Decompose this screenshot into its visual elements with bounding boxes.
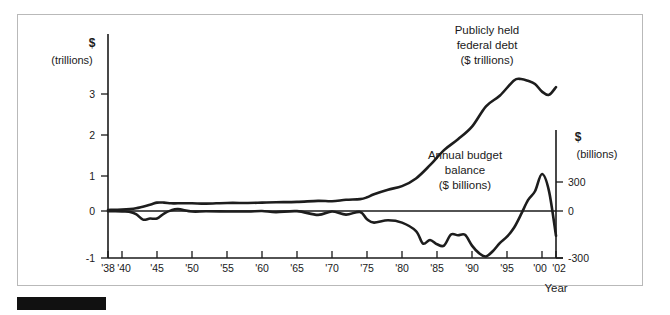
left-tick-label-2: 2	[89, 129, 95, 141]
balance-annotation-line-2: balance	[445, 164, 485, 176]
x-tick-label-1945: '45	[150, 262, 164, 274]
right-tick-label-300: 300	[568, 176, 586, 188]
x-tick-label-1995: '95	[500, 262, 514, 274]
debt-annotation: Publicly held federal debt ($ trillions)	[455, 24, 520, 66]
x-tick-label-1965: '65	[290, 262, 304, 274]
x-tick-label-1955: '55	[220, 262, 234, 274]
x-tick-label-1938: '38	[101, 262, 115, 274]
left-tick-label-neg1: -1	[86, 252, 95, 264]
x-tick-label-1990: '90	[465, 262, 479, 274]
figure-root: 3 2 1 0 -1 $ (trillions) 300 0 -300 $ (b…	[0, 0, 670, 315]
balance-annotation-line-1: Annual budget	[428, 149, 503, 161]
right-axis-title-unit: (billions)	[577, 148, 618, 160]
left-tick-label-3: 3	[89, 88, 95, 100]
balance-annotation: Annual budget balance ($ billions)	[428, 149, 503, 191]
x-tick-label-1940: '40	[117, 262, 131, 274]
balance-annotation-line-3: ($ billions)	[439, 179, 492, 191]
x-axis-title: Year	[544, 282, 567, 294]
x-tick-label-1975: '75	[360, 262, 374, 274]
right-axis-title-currency: $	[575, 130, 582, 144]
left-tick-label-1: 1	[89, 170, 95, 182]
right-axis: 300 0 -300 $ (billions)	[556, 130, 617, 264]
x-tick-label-1985: '85	[430, 262, 444, 274]
x-axis: '38 '40 '45 '50 '55 '60 '65 '70 '75 '80 …	[101, 251, 568, 294]
x-tick-label-2000: '00	[533, 262, 547, 274]
x-tick-label-2002: '02	[552, 262, 566, 274]
left-axis-title-unit: (trillions)	[51, 54, 93, 66]
x-tick-label-1980: '80	[395, 262, 409, 274]
right-tick-label-0: 0	[568, 205, 574, 217]
x-tick-label-1960: '60	[255, 262, 269, 274]
debt-annotation-line-2: federal debt	[457, 39, 519, 51]
right-tick-label-neg300: -300	[568, 252, 589, 264]
debt-annotation-line-3: ($ trillions)	[460, 54, 513, 66]
x-tick-label-1970: '70	[325, 262, 339, 274]
left-axis: 3 2 1 0 -1 $ (trillions)	[51, 34, 108, 264]
x-tick-label-1950: '50	[185, 262, 199, 274]
left-axis-title-currency: $	[89, 36, 96, 50]
debt-annotation-line-1: Publicly held	[455, 24, 520, 36]
chart-plot: 3 2 1 0 -1 $ (trillions) 300 0 -300 $ (b…	[0, 0, 670, 315]
left-tick-label-0: 0	[89, 205, 95, 217]
